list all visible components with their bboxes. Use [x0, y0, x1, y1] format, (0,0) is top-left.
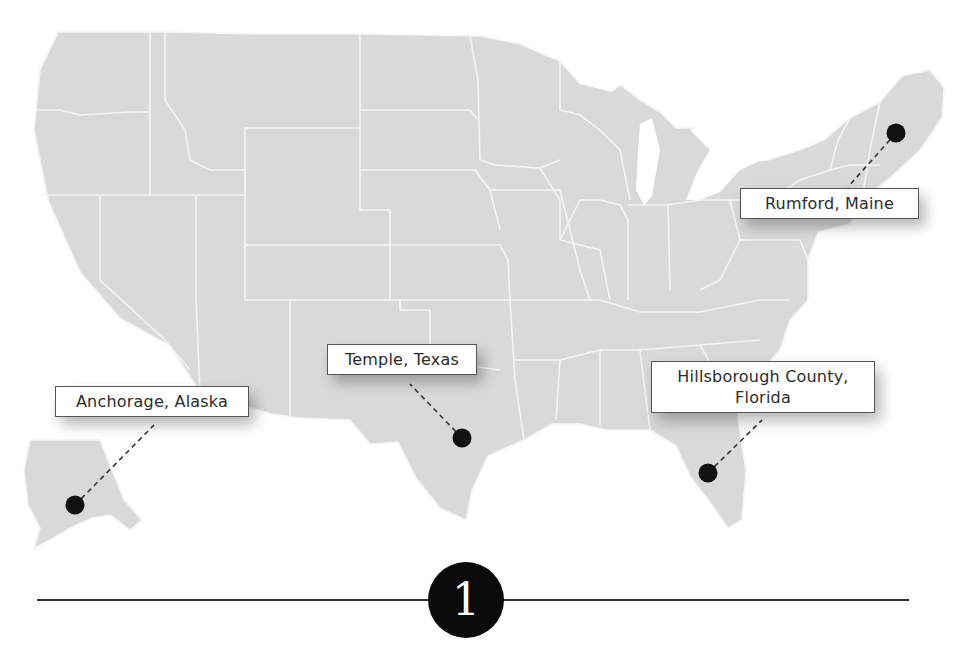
- label-text: Anchorage, Alaska: [76, 392, 228, 411]
- label-anchorage-alaska: Anchorage, Alaska: [55, 386, 249, 417]
- label-hillsborough-county-florida: Hillsborough County, Florida: [651, 361, 875, 413]
- map-land: [24, 32, 944, 548]
- label-text-line2: Florida: [659, 387, 867, 408]
- label-text: Rumford, Maine: [765, 194, 894, 213]
- us-map: [0, 0, 963, 660]
- marker-temple: [453, 429, 472, 448]
- marker-hillsborough: [699, 464, 718, 483]
- label-text: Temple, Texas: [345, 350, 459, 369]
- label-temple-texas: Temple, Texas: [327, 344, 477, 375]
- section-number: 1: [452, 574, 480, 625]
- label-text-line1: Hillsborough County,: [659, 366, 867, 387]
- label-rumford-maine: Rumford, Maine: [740, 188, 919, 219]
- section-number-badge: 1: [428, 562, 504, 638]
- marker-anchorage: [66, 496, 85, 515]
- marker-rumford: [887, 124, 906, 143]
